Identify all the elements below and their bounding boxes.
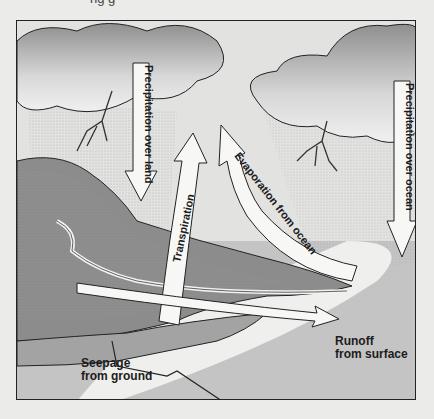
label-runoff: Runoff from surface bbox=[335, 335, 408, 361]
label-seepage-line2: from ground bbox=[81, 370, 152, 383]
label-seepage: Seepage from ground bbox=[81, 357, 152, 383]
label-runoff-line2: from surface bbox=[335, 348, 408, 361]
water-cycle-diagram: Precipitation over land Precipitation ov… bbox=[16, 20, 416, 400]
label-precipitation-ocean: Precipitation over ocean bbox=[404, 83, 416, 211]
cutoff-caption: ng g bbox=[90, 0, 115, 6]
cloud-land bbox=[17, 24, 224, 112]
label-precipitation-land: Precipitation over land bbox=[143, 65, 155, 184]
